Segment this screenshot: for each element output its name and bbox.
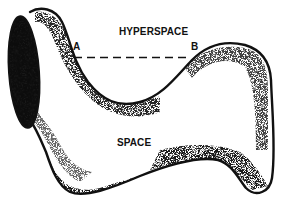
space-label: SPACE [117, 138, 151, 148]
hyperspace-label: HYPERSPACE [119, 27, 188, 37]
point-a-label: A [73, 42, 80, 52]
point-b-label: B [191, 42, 198, 52]
wormhole-diagram: HYPERSPACE A B SPACE [0, 0, 293, 215]
